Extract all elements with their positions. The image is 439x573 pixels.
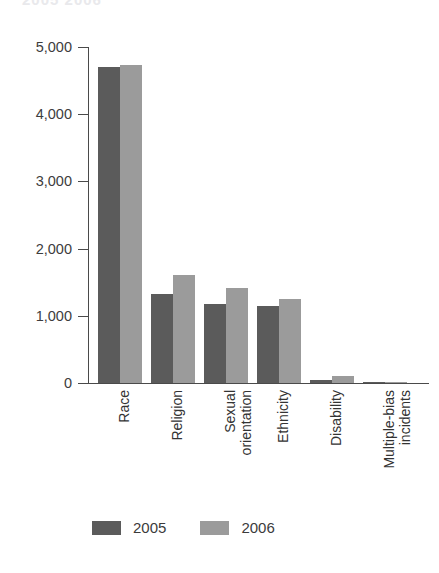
bar-2005-sexual-orientation	[204, 304, 226, 383]
x-axis-label-line: incidents	[398, 390, 414, 469]
legend-swatch-2005	[92, 521, 121, 535]
bar-2006-race	[120, 65, 142, 383]
bar-2006-disability	[332, 376, 354, 383]
x-axis-label-line: Sexual	[222, 390, 238, 433]
x-axis-label-line: Disability	[328, 390, 344, 446]
x-axis-label-religion: Religion	[170, 390, 186, 441]
x-axis-label-sexual-orientation: Sexualorientation	[223, 390, 254, 455]
bar-2006-sexual-orientation	[226, 288, 248, 383]
bar-2006-ethnicity	[279, 299, 301, 383]
bar-chart: 01,0002,0003,0004,0005,000 RaceReligionS…	[0, 0, 439, 573]
bars-layer	[0, 0, 439, 383]
bar-2006-multiple-bias-incidents	[385, 382, 407, 384]
x-axis-label-race: Race	[117, 390, 133, 423]
x-axis-label-disability: Disability	[329, 390, 345, 446]
bar-2006-religion	[173, 275, 195, 383]
legend-item-2006: 2006	[200, 520, 274, 535]
x-axis-label-ethnicity: Ethnicity	[276, 390, 292, 443]
chart-legend: 2005 2006	[92, 520, 275, 535]
x-axis-label-line: Religion	[169, 390, 185, 441]
legend-swatch-2006	[200, 521, 229, 535]
legend-label-2005: 2005	[133, 520, 166, 535]
bar-2005-ethnicity	[257, 306, 279, 383]
y-axis-tick	[78, 383, 89, 384]
x-axis-label-line: Multiple-bias	[381, 390, 397, 469]
x-axis-label-multiple-bias-incidents: Multiple-biasincidents	[382, 390, 413, 469]
bar-2005-multiple-bias-incidents	[363, 382, 385, 384]
x-axis-line	[78, 383, 429, 384]
x-axis-label-line: Ethnicity	[275, 390, 291, 443]
x-axis-label-line: Race	[116, 390, 132, 423]
x-axis-label-line: orientation	[239, 390, 255, 455]
legend-label-2006: 2006	[241, 520, 274, 535]
legend-item-2005: 2005	[92, 520, 166, 535]
bar-2005-disability	[310, 380, 332, 383]
bar-2005-race	[98, 67, 120, 383]
bar-2005-religion	[151, 294, 173, 383]
